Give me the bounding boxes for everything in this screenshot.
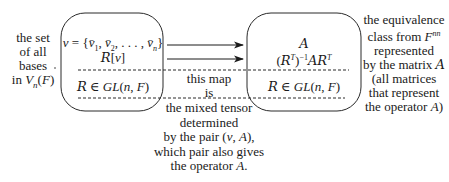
mixed-tensor-diagram: the set of all bases in Vn(F) v = {v̄1, … [0, 0, 449, 182]
right-label-line: represented [359, 44, 449, 58]
middle-label-line: the operator A. [145, 159, 273, 174]
middle-label-line: this map [150, 72, 268, 86]
right-box-similarity: (RT)−1ART [247, 51, 361, 68]
right-label-line: by the matrix A [359, 58, 449, 72]
right-label-line: class from Fnn [359, 27, 449, 44]
left-label-line: the set [0, 31, 66, 45]
middle-label-line: the mixed tensor [145, 101, 273, 116]
right-label-line: (all matrices [359, 72, 449, 86]
right-label: the equivalence class from Fnn represent… [359, 13, 449, 114]
middle-label-line: is [150, 86, 268, 100]
middle-label-line: which pair also gives [145, 145, 273, 160]
right-label-line: that represent [359, 86, 449, 100]
right-label-line: the operator A) [359, 100, 449, 114]
left-box-group: R ∈ GL(n, F) [62, 80, 164, 94]
middle-label-line: determined [145, 116, 273, 131]
middle-label-line: by the pair (v, A), [145, 130, 273, 145]
right-box-matrix: A [247, 37, 361, 51]
right-label-line: the equivalence [359, 13, 449, 27]
left-label-line: in Vn(F) [0, 73, 66, 92]
left-label-line: of all [0, 45, 66, 59]
left-label: the set of all bases in Vn(F) [0, 31, 66, 92]
middle-label-top: this map is [150, 72, 268, 100]
left-box-rv: R[v] [62, 51, 164, 65]
middle-label-bottom: the mixed tensor determined by the pair … [145, 101, 273, 174]
left-label-line: bases [0, 59, 66, 73]
